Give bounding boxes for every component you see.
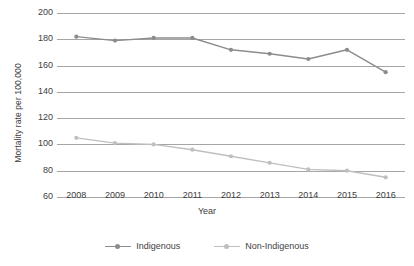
chart-legend: IndigenousNon-Indigenous: [0, 241, 414, 251]
data-point-indigenous-2015: [345, 48, 349, 52]
legend-label: Non-Indigenous: [245, 241, 309, 251]
plot-area: 6080100120140160180200: [57, 13, 405, 197]
legend-item-non-indigenous[interactable]: Non-Indigenous: [214, 241, 309, 251]
x-axis-title: Year: [0, 206, 414, 216]
legend-marker-icon: [214, 242, 240, 251]
y-axis-tick-label: 180: [13, 34, 53, 43]
data-point-indigenous-2008: [74, 35, 78, 39]
data-point-non-indigenous-2013: [268, 161, 272, 165]
x-axis-tick-label-2016: 2016: [363, 190, 409, 200]
data-point-indigenous-2012: [229, 48, 233, 52]
data-point-non-indigenous-2016: [384, 175, 388, 179]
data-point-indigenous-2013: [268, 52, 272, 56]
y-axis-tick-label: 60: [13, 192, 53, 201]
data-point-non-indigenous-2008: [74, 136, 78, 140]
data-point-non-indigenous-2015: [345, 169, 349, 173]
y-axis-tick-label: 100: [13, 139, 53, 148]
legend-marker-icon: [105, 242, 131, 251]
mortality-rate-line-chart: Mortality rate per 100,000 6080100120140…: [0, 0, 414, 266]
y-axis-tick-label: 80: [13, 166, 53, 175]
legend-item-indigenous[interactable]: Indigenous: [105, 241, 180, 251]
data-point-indigenous-2009: [113, 39, 117, 43]
y-axis-tick-label: 160: [13, 61, 53, 70]
y-axis-tick-label: 120: [13, 113, 53, 122]
data-point-non-indigenous-2014: [306, 167, 310, 171]
data-point-non-indigenous-2012: [229, 154, 233, 158]
data-point-indigenous-2010: [152, 36, 156, 40]
data-point-indigenous-2016: [384, 70, 388, 74]
y-axis-tick-label: 140: [13, 87, 53, 96]
data-point-indigenous-2014: [306, 57, 310, 61]
y-axis-tick-label: 200: [13, 8, 53, 17]
legend-label: Indigenous: [136, 241, 180, 251]
series-line-indigenous: [76, 37, 385, 72]
data-point-non-indigenous-2010: [152, 142, 156, 146]
data-point-non-indigenous-2011: [190, 148, 194, 152]
data-point-indigenous-2011: [190, 36, 194, 40]
data-point-non-indigenous-2009: [113, 141, 117, 145]
series-layer: [57, 13, 405, 197]
